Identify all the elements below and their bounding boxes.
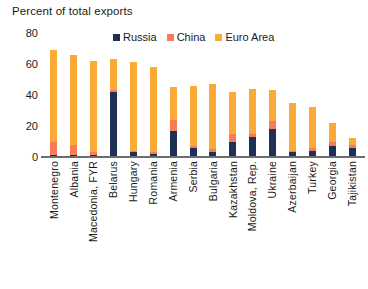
x-axis-label: Moldova, Rep.	[247, 161, 258, 231]
x-axis-label: Azerbaijan	[287, 161, 298, 213]
x-axis-label: Albania	[69, 161, 80, 197]
bar-segment-euro-area	[269, 90, 276, 121]
bar-slot	[163, 33, 183, 157]
bar-segment-euro-area	[70, 55, 77, 145]
bar-segment-euro-area	[329, 123, 336, 142]
bar-segment-russia	[249, 137, 256, 157]
bar-slot	[342, 33, 362, 157]
bar-segment-euro-area	[130, 62, 137, 150]
bar-segment-euro-area	[50, 50, 57, 141]
x-axis-label: Georgia	[327, 161, 338, 200]
bar-stack[interactable]	[50, 50, 57, 157]
x-axis-label: Belarus	[108, 161, 119, 198]
x-label-slot: Belarus	[104, 161, 124, 287]
x-label-slot: Kazakhstan	[223, 161, 243, 287]
bar-segment-china	[229, 134, 236, 142]
bar-segment-euro-area	[110, 59, 117, 90]
bar-segment-euro-area	[309, 107, 316, 147]
bar-slot	[322, 33, 342, 157]
x-label-slot: Turkey	[302, 161, 322, 287]
y-tick-label: 60	[26, 59, 38, 70]
bar-segment-euro-area	[90, 61, 97, 152]
x-label-slot: Ukraine	[263, 161, 283, 287]
x-axis-label: Hungary	[128, 161, 139, 202]
x-label-slot: Georgia	[322, 161, 342, 287]
x-axis-category-labels: MontenegroAlbaniaMacedonia, FYRBelarusHu…	[44, 161, 362, 287]
bar-slot	[64, 33, 84, 157]
bar-stack[interactable]	[190, 86, 197, 157]
bar-slot	[243, 33, 263, 157]
bar-segment-euro-area	[289, 103, 296, 151]
bar-slot	[203, 33, 223, 157]
chart-figure: Percent of total exports Russia China Eu…	[0, 0, 368, 289]
x-axis-label: Ukraine	[267, 161, 278, 199]
bar-stack[interactable]	[90, 61, 97, 157]
bar-segment-euro-area	[150, 67, 157, 152]
bar-slot	[283, 33, 303, 157]
bar-segment-euro-area	[229, 92, 236, 134]
bar-stack[interactable]	[130, 62, 137, 157]
x-label-slot: Tajikistan	[342, 161, 362, 287]
bar-stack[interactable]	[110, 59, 117, 157]
x-axis-label: Montenegro	[49, 161, 60, 219]
x-label-slot: Moldova, Rep.	[243, 161, 263, 287]
x-axis-label: Armenia	[168, 161, 179, 202]
bar-stack[interactable]	[309, 107, 316, 157]
chart-title: Percent of total exports	[12, 5, 133, 17]
x-label-slot: Serbia	[183, 161, 203, 287]
bar-segment-china	[170, 120, 177, 131]
x-axis-label: Kazakhstan	[228, 161, 239, 218]
bar-segment-euro-area	[249, 89, 256, 134]
bar-stack[interactable]	[349, 138, 356, 157]
bar-segment-china	[269, 121, 276, 129]
x-axis-label: Serbia	[188, 161, 199, 193]
bar-segment-euro-area	[170, 87, 177, 120]
bar-stack[interactable]	[150, 67, 157, 157]
y-tick-label: 20	[26, 121, 38, 132]
bar-segment-russia	[110, 92, 117, 157]
bar-stack[interactable]	[70, 55, 77, 157]
plot-area	[44, 33, 362, 157]
bar-stack[interactable]	[249, 89, 256, 157]
bar-slot	[183, 33, 203, 157]
bar-segment-euro-area	[190, 86, 197, 146]
bar-segment-euro-area	[209, 84, 216, 149]
bar-slot	[143, 33, 163, 157]
y-tick-label: 0	[32, 152, 38, 163]
bar-stack[interactable]	[229, 92, 236, 157]
x-axis-line	[41, 156, 365, 158]
x-label-slot: Macedonia, FYR	[84, 161, 104, 287]
x-label-slot: Romania	[143, 161, 163, 287]
y-tick-label: 40	[26, 90, 38, 101]
bar-slot	[302, 33, 322, 157]
x-label-slot: Bulgaria	[203, 161, 223, 287]
x-label-slot: Armenia	[163, 161, 183, 287]
bar-series-container	[44, 33, 362, 157]
bar-segment-russia	[170, 131, 177, 157]
bar-segment-russia	[229, 142, 236, 158]
x-label-slot: Albania	[64, 161, 84, 287]
x-label-slot: Hungary	[124, 161, 144, 287]
x-axis-label: Macedonia, FYR	[88, 161, 99, 242]
bar-stack[interactable]	[269, 90, 276, 157]
bar-stack[interactable]	[170, 87, 177, 157]
bar-slot	[104, 33, 124, 157]
bar-segment-china	[70, 145, 77, 156]
x-axis-label: Bulgaria	[208, 161, 219, 201]
y-axis-tick-labels: 020406080	[12, 33, 38, 157]
bar-stack[interactable]	[289, 103, 296, 157]
x-axis-label: Tajikistan	[347, 161, 358, 206]
bar-segment-russia	[269, 129, 276, 157]
x-label-slot: Azerbaijan	[283, 161, 303, 287]
y-tick-label: 80	[26, 28, 38, 39]
bar-stack[interactable]	[209, 84, 216, 157]
x-label-slot: Montenegro	[44, 161, 64, 287]
x-axis-label: Turkey	[307, 161, 318, 194]
x-axis-label: Romania	[148, 161, 159, 204]
bar-slot	[223, 33, 243, 157]
bar-slot	[84, 33, 104, 157]
bar-slot	[124, 33, 144, 157]
bar-slot	[44, 33, 64, 157]
bar-stack[interactable]	[329, 123, 336, 157]
bar-segment-china	[50, 142, 57, 156]
